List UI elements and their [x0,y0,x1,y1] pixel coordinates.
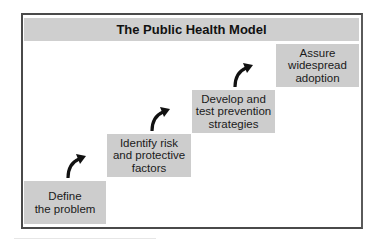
curved-arrow-icon [64,153,88,179]
step-develop-test: Develop and test prevention strategies [192,90,275,133]
divider [14,238,156,239]
diagram-title: The Public Health Model [24,18,359,41]
step-assure-adoption: Assure widespread adoption [276,44,359,87]
step-identify-risk: Identify risk and protective factors [107,134,191,177]
curved-arrow-icon [231,62,255,88]
step-define-problem: Define the problem [24,181,106,224]
curved-arrow-icon [148,106,172,132]
